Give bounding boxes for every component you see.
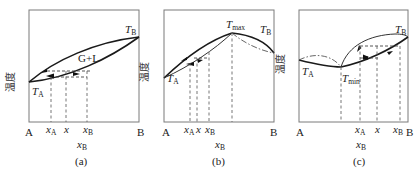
panel-b-vapor-curve-left — [164, 33, 232, 78]
panel-a-arrow-right — [73, 72, 80, 76]
panel-a-tick-xB: xB — [82, 123, 93, 137]
panel-c-tick-xA: xA — [354, 123, 366, 137]
panel-a-end-A: A — [25, 126, 33, 138]
panel-a-TA-label: TA — [32, 85, 44, 99]
panel-c-tick-x: x — [374, 123, 380, 135]
panel-c-liquid-curve-right — [341, 37, 408, 67]
panel-b-Tmax-label: Tmax — [226, 18, 245, 32]
panel-a-TB-label: TB — [125, 23, 136, 37]
panel-a-tick-xA: xA — [45, 123, 57, 137]
panel-a-y-axis-label: 温度 — [4, 72, 16, 92]
panel-c-arrow-liquid — [387, 51, 393, 55]
phase-diagram-figure: 温度 G+L TA TB A B xA x xB xB (a) 温度 — [0, 0, 418, 171]
panel-c-frame — [299, 10, 408, 122]
panel-c: 温度 TA Tmin TB A B xA x xB xB (c) — [274, 10, 413, 168]
panel-b: 温度 TA Tmax TB A B xA x xB xB (b) — [138, 10, 277, 168]
panel-a: 温度 G+L TA TB A B xA x xB xB (a) — [4, 10, 144, 168]
panel-c-caption: (c) — [353, 155, 366, 168]
panel-b-end-B: B — [270, 126, 277, 138]
panel-c-y-axis-label: 温度 — [274, 54, 286, 74]
panel-a-frame — [29, 10, 139, 122]
panel-b-TA-label: TA — [167, 72, 179, 86]
panel-c-TB-label: TB — [395, 23, 406, 37]
panel-a-end-B: B — [137, 126, 144, 138]
panel-c-arrow-right-body — [363, 57, 368, 60]
panel-c-tick-xB: xB — [392, 123, 403, 137]
panel-b-liquid-curve-left — [164, 33, 232, 78]
panel-b-tick-xA: xA — [183, 123, 195, 137]
panel-b-tick-xB: xB — [204, 123, 215, 137]
panel-c-end-A: A — [296, 126, 304, 138]
panel-b-y-axis-label: 温度 — [138, 62, 150, 82]
panel-c-end-B: B — [406, 126, 413, 138]
panel-b-end-A: A — [162, 126, 170, 138]
panel-a-region-label: G+L — [78, 52, 99, 64]
panel-b-x-axis-label: xB — [214, 138, 225, 152]
panel-a-caption: (a) — [75, 155, 88, 168]
panel-b-arrow-vapor — [181, 57, 187, 61]
panel-b-caption: (b) — [212, 155, 225, 168]
panel-a-x-axis-label: xB — [76, 138, 87, 152]
panel-b-frame — [164, 10, 274, 122]
panel-c-vapor-curve-right — [341, 34, 408, 67]
panel-b-tick-x: x — [195, 123, 201, 135]
panel-c-x-axis-label: xB — [355, 138, 366, 152]
panel-a-tick-x: x — [63, 123, 69, 135]
panel-c-TA-label: TA — [302, 65, 314, 79]
panel-a-arrow-left — [46, 74, 54, 79]
panel-b-arrow-right — [197, 59, 203, 63]
panel-c-Tmin-label: Tmin — [342, 72, 360, 86]
panel-b-TB-label: TB — [260, 23, 271, 37]
